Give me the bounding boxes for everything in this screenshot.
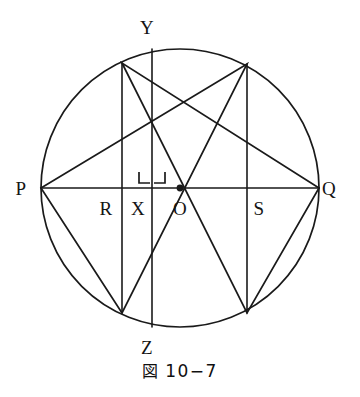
centre-point-dot-icon xyxy=(177,185,184,192)
label-point-x: X xyxy=(131,199,145,218)
right-angle-mark-right-icon xyxy=(154,172,165,183)
geometry-figure: P Q Y Z R X O S 図10−7 xyxy=(0,0,360,397)
right-angle-mark-left-icon xyxy=(139,172,150,183)
caption-number: 10−7 xyxy=(165,361,218,381)
label-point-y: Y xyxy=(140,18,154,37)
label-point-r: R xyxy=(100,199,113,218)
label-point-s: S xyxy=(254,199,265,218)
label-point-q: Q xyxy=(322,179,336,198)
caption-kanji-zu: 図 xyxy=(142,362,158,381)
label-point-o: O xyxy=(173,199,187,218)
label-point-z: Z xyxy=(141,338,153,357)
label-point-p: P xyxy=(16,179,27,198)
figure-caption: 図10−7 xyxy=(0,358,360,382)
